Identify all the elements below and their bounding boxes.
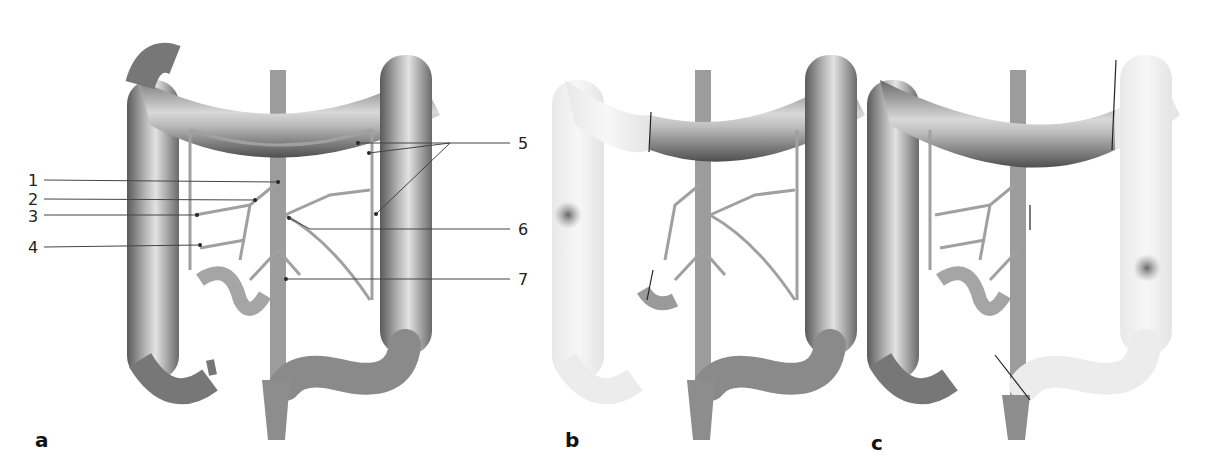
- panel-c-colon: [867, 55, 1180, 440]
- callout-4: 4: [28, 240, 38, 256]
- colon-illustration: [0, 0, 1212, 473]
- panel-label-a: a: [35, 430, 49, 450]
- callout-2: 2: [28, 192, 38, 208]
- callout-3: 3: [28, 209, 38, 225]
- panel-label-b: b: [565, 430, 579, 450]
- panel-b-colon: [552, 55, 865, 440]
- callout-6: 6: [518, 222, 528, 238]
- callout-7: 7: [518, 272, 528, 288]
- callout-1: 1: [28, 173, 38, 189]
- panel-label-c: c: [871, 433, 883, 453]
- callout-5: 5: [518, 136, 528, 152]
- panel-a-colon: [44, 55, 510, 440]
